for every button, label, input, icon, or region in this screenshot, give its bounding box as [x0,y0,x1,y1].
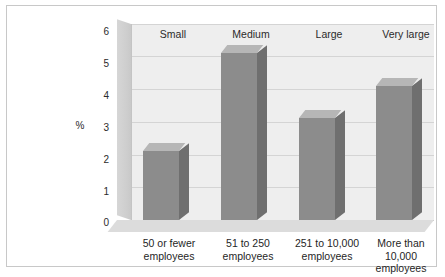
bar-large[interactable] [299,118,335,220]
y-tick-label-3: 3 [93,123,109,133]
bar-small-side-face [179,143,189,220]
bar-small[interactable] [143,151,179,220]
gridline-5 [131,56,434,57]
bar-large-side-face [335,110,345,220]
bar-small-front-face [143,151,179,220]
y-tick-label-2: 2 [93,155,109,165]
bar-large-front-face [299,118,335,220]
plot-floor [108,220,434,232]
bar-chart-figure: % 6 5 4 3 2 1 0 [0,0,445,277]
plot-area [117,24,434,232]
bar-medium[interactable] [221,53,257,220]
y-axis-line [131,24,132,220]
plot-left-wall [117,19,131,220]
bar-medium-side-face [257,45,267,220]
chart-frame: % 6 5 4 3 2 1 0 [6,5,437,267]
bar-medium-front-face [221,53,257,220]
y-tick-label-4: 4 [93,91,109,101]
y-tick-label-1: 1 [93,187,109,197]
category-top-label-very-large: Very large [361,28,445,40]
bar-very-large-front-face [376,86,412,220]
y-tick-label-5: 5 [93,59,109,69]
bar-very-large-side-face [412,78,422,220]
category-bottom-label-4-line-3: employees [356,262,445,275]
category-top-label-small: Small [128,28,218,40]
y-tick-label-0: 0 [93,218,109,228]
category-top-label-medium: Medium [206,28,296,40]
bar-very-large[interactable] [376,86,412,220]
category-bottom-label-4-line-2: 10,000 [356,250,445,263]
category-bottom-label-4-line-1: More than [356,237,445,250]
y-axis-title: % [69,120,91,131]
category-bottom-label-4: More than 10,000 employees [356,237,445,275]
y-tick-label-6: 6 [93,27,109,37]
gridline-6 [131,24,434,25]
plot-floor-front [117,220,127,232]
